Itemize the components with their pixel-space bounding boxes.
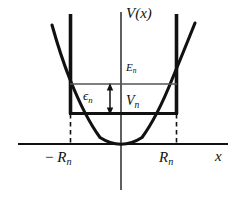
energy-level-label: En (126, 62, 136, 75)
x-axis-label: x (215, 149, 222, 164)
figure-canvas (0, 0, 243, 208)
left-turning-point-label: − Rn (45, 150, 71, 167)
potential-well-figure: V(x) En Vn ϵn − Rn Rn x (0, 0, 243, 208)
gap-arrow (107, 83, 113, 115)
well-bottom-label: Vn (126, 94, 139, 110)
gap-label: ϵn (83, 89, 93, 104)
v-axis-label: V(x) (126, 6, 152, 21)
right-turning-point-label: Rn (159, 150, 173, 167)
